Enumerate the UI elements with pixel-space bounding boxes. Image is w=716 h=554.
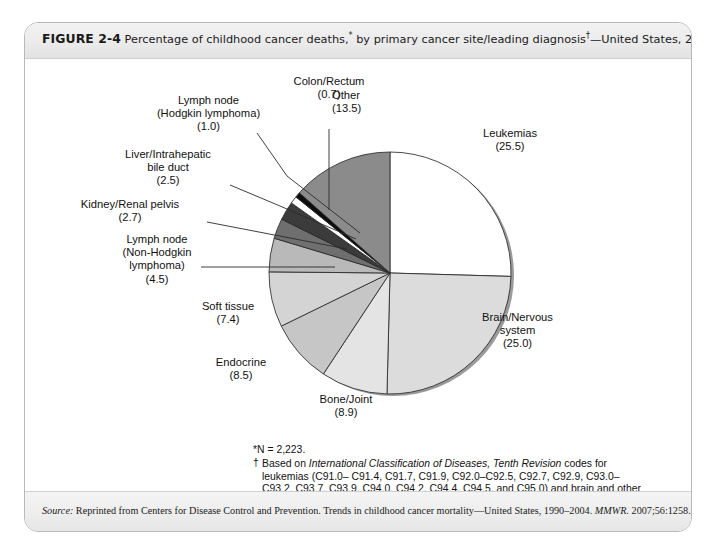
pie-label-liver-line1: Liver/Intrahepatic <box>105 148 231 161</box>
pie-label-hodgkin: Lymph node (Hodgkin lymphoma) (1.0) <box>131 94 286 134</box>
pie-label-soft-tissue-value: (7.4) <box>173 313 283 326</box>
pie-label-nonhodgkin-line2: (Non-Hodgkin <box>111 246 203 259</box>
chart-plot-area: Leukemias (25.5) Brain/Nervous system (2… <box>25 59 691 493</box>
source-label: Source: <box>42 505 73 516</box>
figure-number: FIGURE 2-4 <box>42 31 121 46</box>
pie-label-endocrine-value: (8.5) <box>186 369 296 382</box>
pie-label-hodgkin-line2: (Hodgkin lymphoma) <box>131 107 286 120</box>
pie-label-nonhodgkin-value: (4.5) <box>111 273 203 286</box>
pie-label-bone-joint-line1: Bone/Joint <box>291 393 401 406</box>
pie-slices <box>269 152 511 394</box>
pie-label-brain: Brain/Nervous system (25.0) <box>455 311 580 351</box>
source-citation-detail: 2007;56:1258. <box>629 505 691 516</box>
source-citation: Source: Reprinted from Centers for Disea… <box>42 505 679 516</box>
pie-label-kidney: Kidney/Renal pelvis (2.7) <box>56 198 204 224</box>
pie-label-endocrine: Endocrine (8.5) <box>186 356 296 382</box>
caption-text-4: —United States, 2004. <box>590 33 692 46</box>
pie-label-leukemias: Leukemias (25.5) <box>450 127 570 153</box>
pie-label-liver: Liver/Intrahepatic bile duct (2.5) <box>105 148 231 188</box>
pie-label-soft-tissue-line1: Soft tissue <box>173 300 283 313</box>
source-journal: MMWR. <box>595 505 629 516</box>
source-text: Reprinted from Centers for Disease Contr… <box>73 505 594 516</box>
pie-label-endocrine-line1: Endocrine <box>186 356 296 369</box>
note-italic-title: International Classification of Diseases… <box>309 458 562 469</box>
pie-label-colon-rectum-line1: Colon/Rectum <box>265 75 393 88</box>
pie-label-nonhodgkin-line1: Lymph node <box>111 233 203 246</box>
pie-label-kidney-line1: Kidney/Renal pelvis <box>56 198 204 211</box>
pie-label-liver-line2: bile duct <box>105 161 231 174</box>
pie-label-hodgkin-line1: Lymph node <box>131 94 286 107</box>
pie-label-brain-line2: system <box>455 324 580 337</box>
pie-label-nonhodgkin-line3: lymphoma) <box>111 259 203 272</box>
pie-label-brain-value: (25.0) <box>455 337 580 350</box>
pie-label-bone-joint: Bone/Joint (8.9) <box>291 393 401 419</box>
caption-text-3: by primary cancer site/leading diagnosis <box>353 33 586 46</box>
note-dagger-symbol: † <box>253 457 259 469</box>
pie-label-bone-joint-value: (8.9) <box>291 406 401 419</box>
figure-panel: FIGURE 2-4 Percentage of childhood cance… <box>24 22 692 532</box>
pie-label-nonhodgkin: Lymph node (Non-Hodgkin lymphoma) (4.5) <box>111 233 203 286</box>
pie-label-other: Other (13.5) <box>332 89 412 115</box>
figure-caption: FIGURE 2-4 Percentage of childhood cance… <box>42 31 677 46</box>
note-sample-size: *N = 2,223. <box>253 444 653 456</box>
pie-label-other-value: (13.5) <box>332 102 412 115</box>
pie-slice <box>390 152 511 276</box>
pie-label-hodgkin-value: (1.0) <box>131 120 286 133</box>
figure-footer-band: Source: Reprinted from Centers for Disea… <box>25 491 691 531</box>
note-lead-text: Based on <box>262 458 309 469</box>
pie-label-soft-tissue: Soft tissue (7.4) <box>173 300 283 326</box>
pie-label-kidney-value: (2.7) <box>56 211 204 224</box>
pie-label-leukemias-line1: Leukemias <box>450 127 570 140</box>
caption-text-2: Percentage of childhood cancer deaths, <box>125 33 349 46</box>
pie-label-leukemias-value: (25.5) <box>450 140 570 153</box>
pie-label-other-line1: Other <box>332 89 412 102</box>
pie-label-brain-line1: Brain/Nervous <box>455 311 580 324</box>
pie-label-liver-value: (2.5) <box>105 174 231 187</box>
